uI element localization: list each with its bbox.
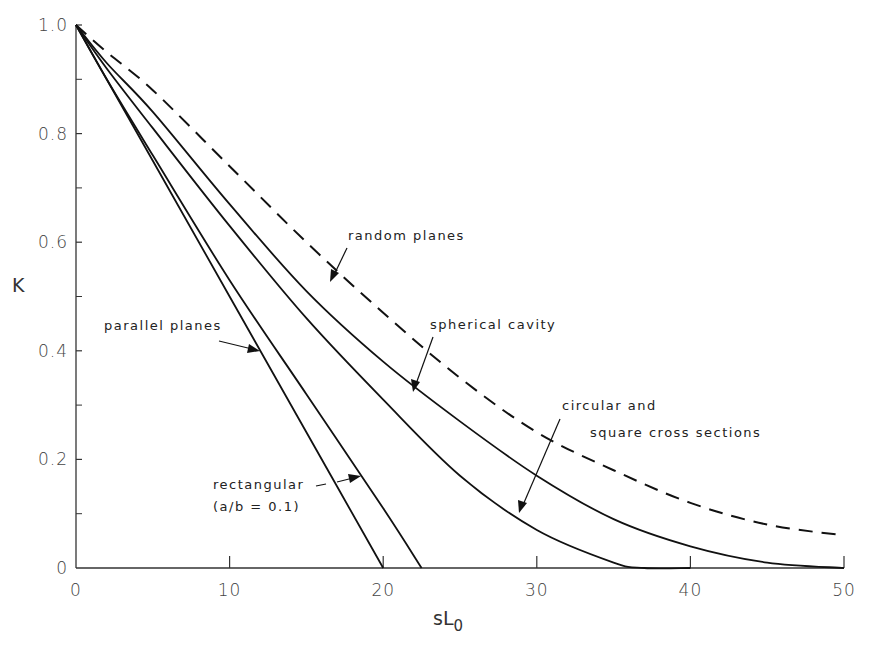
annotation-random-planes: random planes <box>348 228 465 243</box>
y-tick-label: 1.0 <box>38 15 68 35</box>
annotation-random-planes-arrow-line <box>334 248 347 275</box>
annotation-parallel-planes: parallel planes <box>104 318 222 333</box>
y-tick-label: 0.8 <box>38 124 68 144</box>
y-axis-title: K <box>12 274 25 296</box>
annotation-circular-line2: square cross sections <box>590 425 761 440</box>
series-group <box>76 25 844 568</box>
x-tick-label: 20 <box>371 580 395 600</box>
annotation-rectangular-dash <box>316 484 326 486</box>
annotation-rectangular-line1: rectangular <box>213 477 304 492</box>
x-axis-title-sub: 0 <box>453 617 463 635</box>
y-tick-label: 0.2 <box>38 449 68 469</box>
annotation-circular-line1: circular and <box>562 398 657 413</box>
annotation-circular-arrow-line <box>523 419 560 505</box>
x-tick-label: 0 <box>70 580 82 600</box>
x-tick-label: 30 <box>525 580 549 600</box>
chart: 0102030405000.20.40.60.81.0 K sL0 random… <box>0 0 872 653</box>
x-tick-label: 40 <box>679 580 703 600</box>
arrow-head-icon <box>518 500 527 513</box>
y-tick-label: 0.6 <box>38 232 68 252</box>
x-tick-label: 10 <box>218 580 242 600</box>
x-axis-title-main: sL <box>433 607 454 629</box>
arrow-head-icon <box>330 269 339 282</box>
series-circular-and-square-cross-sections <box>76 25 690 568</box>
y-tick-label: 0 <box>56 558 68 578</box>
axes: 0102030405000.20.40.60.81.0 <box>38 15 856 600</box>
annotation-spherical-cavity: spherical cavity <box>430 317 556 332</box>
series-spherical-cavity <box>76 25 844 568</box>
y-tick-label: 0.4 <box>38 341 68 361</box>
x-axis-title: sL0 <box>433 607 463 635</box>
arrow-head-icon <box>348 474 361 483</box>
annotation-parallel-planes-arrow-line <box>219 341 252 349</box>
series-random-planes <box>76 25 844 535</box>
annotation-rectangular-line2: (a/b = 0.1) <box>213 499 300 514</box>
x-tick-label: 50 <box>832 580 856 600</box>
